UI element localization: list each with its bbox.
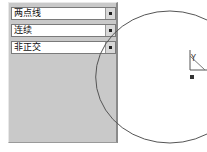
origin-marker-icon [190, 75, 194, 79]
ucs-y-label: Y [190, 54, 196, 63]
ucs-icon: Y [190, 50, 207, 79]
drawing-canvas[interactable]: Y [0, 0, 207, 152]
